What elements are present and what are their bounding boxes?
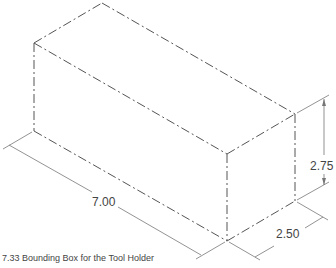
extension-line	[297, 202, 328, 220]
dimension-height: 2.75	[297, 95, 334, 200]
arrowhead	[322, 99, 326, 106]
dimension-label-length: 7.00	[92, 195, 116, 209]
figure-caption: 7.33 Bounding Box for the Tool Holder	[2, 253, 154, 263]
box-edges	[34, 3, 295, 241]
edge-top-front-right	[227, 114, 295, 154]
bounding-box-drawing: 2.75 2.50 7.00	[0, 0, 336, 268]
dimension-line	[305, 217, 323, 228]
dimension-line	[118, 207, 201, 255]
extension-line	[229, 242, 260, 260]
edge-top-back	[34, 3, 102, 43]
dimension-line	[9, 145, 92, 192]
dimension-label-width: 2.50	[276, 227, 300, 241]
edge-top-right	[102, 3, 295, 114]
dimension-line	[255, 246, 274, 257]
extension-line	[3, 132, 32, 149]
extension-line	[196, 242, 225, 259]
edge-bottom-front-left	[34, 131, 227, 241]
edge-top-front-left	[34, 43, 227, 154]
dimension-length: 7.00	[3, 132, 225, 259]
dimension-label-height: 2.75	[310, 159, 334, 173]
